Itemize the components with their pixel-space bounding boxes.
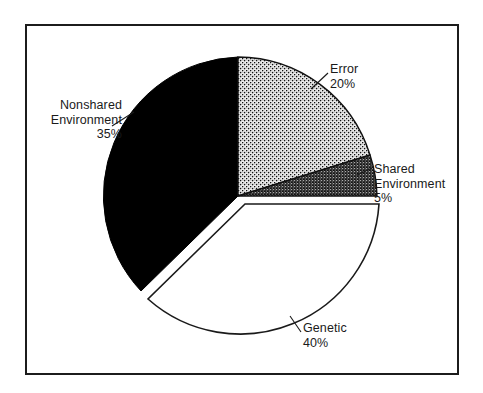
slice-label-value: 40%: [303, 336, 347, 351]
slice-label-line: Shared: [374, 162, 445, 177]
slice-label-error: Error 20%: [330, 62, 358, 91]
slice-label-genetic: Genetic 40%: [303, 321, 347, 350]
slice-label-nonshared-environment: Nonshared Environment 35%: [18, 98, 122, 142]
slice-label-line: Genetic: [303, 321, 347, 336]
figure-container: Nonshared Environment 35% Error 20% Shar…: [0, 0, 483, 393]
slice-label-value: 20%: [330, 77, 358, 92]
slice-label-shared-environment: Shared Environment 5%: [374, 162, 445, 206]
slice-label-line: Environment: [374, 177, 445, 192]
slice-label-line: Environment: [18, 113, 122, 128]
slice-label-value: 35%: [18, 127, 122, 142]
slice-label-value: 5%: [374, 191, 445, 206]
slice-label-line: Nonshared: [18, 98, 122, 113]
slice-label-line: Error: [330, 62, 358, 77]
